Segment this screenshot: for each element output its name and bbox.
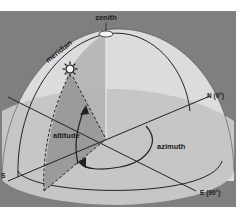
zenith-marker [99,31,113,37]
sun-icon [63,62,78,77]
dome-lower-band [2,89,234,205]
zenith-label: zenith [95,13,117,22]
celestial-dome-diagram: zenith meridian altitude azimuth N (0°) … [0,11,236,207]
south-label: S [1,172,6,179]
altitude-label: altitude [53,131,80,140]
diagram-frame: zenith meridian altitude azimuth N (0°) … [0,11,236,207]
east-label: E (90°) [200,189,220,197]
north-label: N (0°) [207,92,224,100]
azimuth-label: azimuth [157,142,186,151]
